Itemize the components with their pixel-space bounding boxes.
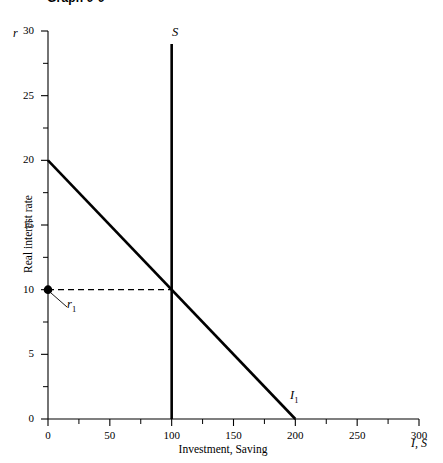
y-tick-label-15: 15 (8, 218, 34, 230)
r1-label: r1 (67, 297, 76, 314)
x-tick-label-300: 300 (399, 429, 439, 441)
axis-lines (48, 31, 419, 419)
investment-curve-label: I1 (290, 388, 298, 405)
x-axis-title: Investment, Saving (133, 443, 313, 455)
y-tick-label-5: 5 (8, 347, 34, 359)
x-tick-label-100: 100 (152, 429, 192, 441)
r1-marker-dot[interactable] (44, 285, 53, 294)
x-tick-label-200: 200 (275, 429, 315, 441)
y-tick-label-25: 25 (8, 89, 34, 101)
x-tick-label-250: 250 (337, 429, 377, 441)
x-tick-label-50: 50 (90, 429, 130, 441)
y-tick-label-20: 20 (8, 153, 34, 165)
y-major-ticks (41, 31, 48, 419)
x-tick-label-0: 0 (28, 429, 68, 441)
r1-label-subscript: 1 (72, 304, 76, 314)
r1-leader-line (51, 293, 67, 307)
saving-curve-label: S (172, 25, 178, 40)
chart-svg (0, 0, 443, 463)
x-tick-label-150: 150 (214, 429, 254, 441)
investment-curve-label-subscript: 1 (294, 395, 298, 405)
y-tick-label-0: 0 (8, 412, 34, 424)
y-tick-label-10: 10 (8, 283, 34, 295)
loanable-funds-chart: r I, S Real interest rate Investment, Sa… (0, 0, 443, 463)
y-tick-label-30: 30 (8, 24, 34, 36)
x-major-ticks (48, 419, 419, 426)
